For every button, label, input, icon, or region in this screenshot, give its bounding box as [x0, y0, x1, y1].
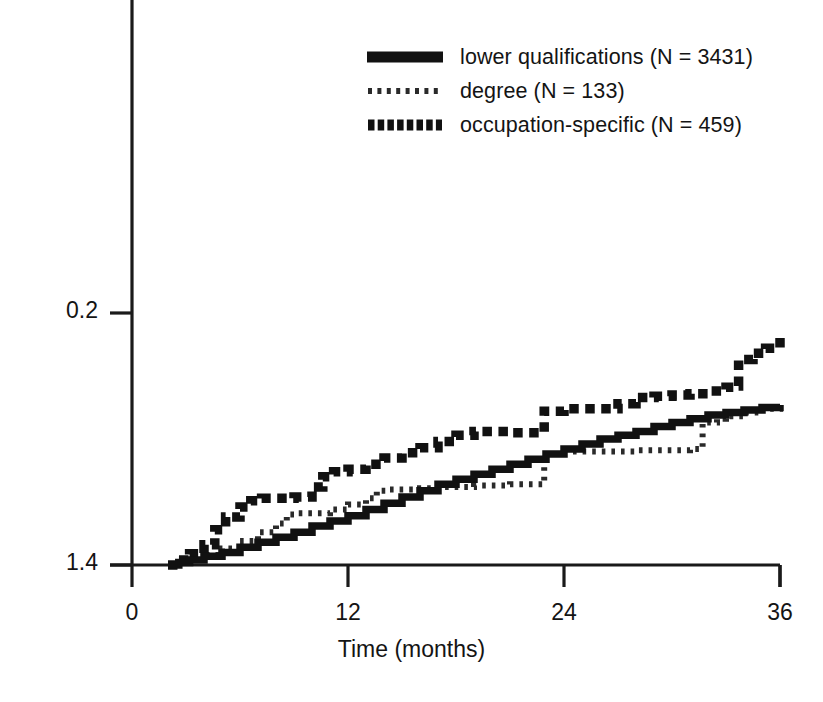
x-tick-label-36: 36 [750, 599, 810, 626]
solid-thick-line-swatch [366, 48, 444, 66]
legend: lower qualifications (N = 3431) degree (… [366, 40, 796, 142]
x-tick-label-24: 24 [534, 599, 594, 626]
cumulative-hazard-chart: 1.4 0.2 0.0 0 12 24 36 Time (months) Cum… [0, 0, 823, 702]
legend-label-occupation-specific: occupation-specific (N = 459) [460, 113, 742, 138]
x-tick-label-0: 0 [102, 599, 162, 626]
fine-dotted-line-swatch [366, 82, 444, 100]
legend-label-lower-qualifications: lower qualifications (N = 3431) [460, 45, 753, 70]
bold-dashed-line-swatch [366, 116, 444, 134]
series-lines [168, 332, 780, 565]
legend-item-lower-qualifications: lower qualifications (N = 3431) [366, 40, 796, 74]
legend-item-degree: degree (N = 133) [366, 74, 796, 108]
y-tick-label-1-4: 1.4 [42, 549, 98, 576]
x-tick-label-12: 12 [318, 599, 378, 626]
legend-label-degree: degree (N = 133) [460, 79, 625, 104]
y-tick-label-0-2: 0.2 [42, 297, 98, 324]
x-axis-title: Time (months) [0, 636, 823, 663]
legend-item-occupation-specific: occupation-specific (N = 459) [366, 108, 796, 142]
